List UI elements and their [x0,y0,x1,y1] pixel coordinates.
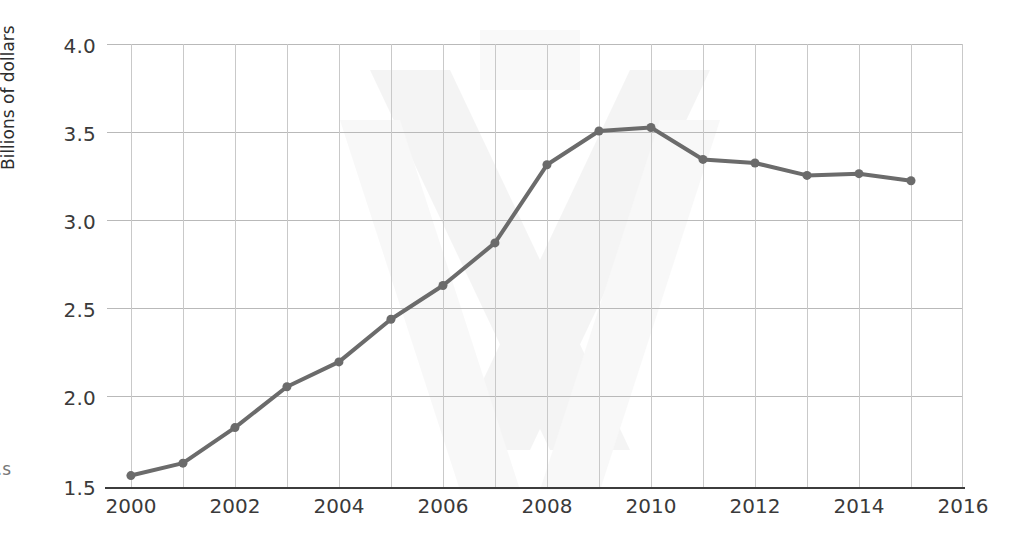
x-tick-2014: 2014 [834,494,885,518]
x-tick-2010: 2010 [626,494,677,518]
y-axis-tick-labels: 4.0 3.5 3.0 2.5 2.0 1.5 [0,0,96,542]
gridline-x-2012 [755,44,756,488]
gridline-x-2004 [339,44,340,488]
gridline-x-2015 [911,44,912,488]
plot-area [107,44,963,488]
gridline-x-2005 [391,44,392,488]
gridline-x-2013 [807,44,808,488]
gridline-x-2003 [287,44,288,488]
gridline-x-2000 [131,44,132,488]
cropped-edge-text: s. [0,459,11,479]
x-tick-2000: 2000 [106,494,157,518]
gridline-x-2001 [183,44,184,488]
x-tick-2002: 2002 [210,494,261,518]
gridline-x-2006 [443,44,444,488]
gridline-x-2010 [651,44,652,488]
y-tick-3.5: 3.5 [64,122,96,146]
gridline-x-2016 [962,44,963,488]
x-tick-2012: 2012 [730,494,781,518]
gridline-x-2011 [703,44,704,488]
x-tick-2008: 2008 [522,494,573,518]
gridline-x-2007 [495,44,496,488]
gridline-x-2008 [547,44,548,488]
y-tick-3.0: 3.0 [64,210,96,234]
y-tick-2.0: 2.0 [64,386,96,410]
gridline-x-2009 [599,44,600,488]
y-tick-2.5: 2.5 [64,298,96,322]
x-tick-2006: 2006 [418,494,469,518]
gridline-x-2002 [235,44,236,488]
x-tick-2016: 2016 [938,494,989,518]
x-axis-line [105,487,965,489]
chart-page: Billions of dollars 4.0 3.5 3.0 2.5 2.0 … [0,0,1022,542]
gridline-x-2014 [859,44,860,488]
x-tick-2004: 2004 [314,494,365,518]
y-tick-4.0: 4.0 [64,34,96,58]
y-tick-1.5: 1.5 [64,476,96,500]
